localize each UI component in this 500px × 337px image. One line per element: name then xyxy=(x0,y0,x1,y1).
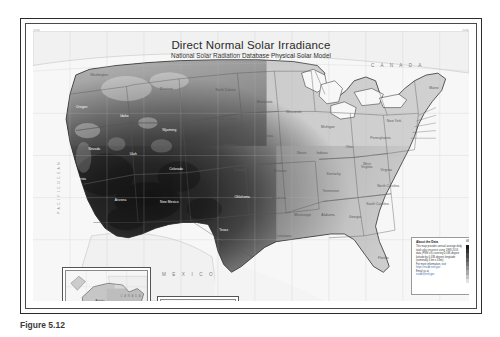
inset-hawaii-frame: Hawaii Pacific Ocean 0 25 50 100 Miles 0… xyxy=(160,299,236,301)
figure-caption: Figure 5.12 xyxy=(20,320,65,330)
email-link[interactable]: nsrdb@nrel.gov xyxy=(416,273,463,277)
scale-swatch xyxy=(466,279,469,283)
color-scale: kWh/m²/Day > 7.57.0 to 7.56.5 to 7.06.0 … xyxy=(466,241,469,292)
alaska-raster xyxy=(66,271,147,301)
about-heading: About the Data xyxy=(416,241,463,244)
scale-unit-label: kWh/m²/Day xyxy=(466,241,469,244)
map-canvas: Direct Normal Solar Irradiance National … xyxy=(33,31,469,301)
inset-map-alaska: Alaska C A N A D A Gulf of Alaska 0 100 … xyxy=(62,267,151,301)
legend-panel: About the Data This map provides annual … xyxy=(411,237,469,295)
scale-rows: > 7.57.0 to 7.56.5 to 7.06.0 to 6.55.5 t… xyxy=(466,245,469,284)
hawaii-raster xyxy=(161,300,235,301)
figure-frame-inner: 125°W120°W115°W110°W105°W100°W95°W90°W85… xyxy=(25,23,477,309)
scale-row: < 4.0 xyxy=(466,279,469,283)
about-text: This map provides annual average daily t… xyxy=(416,245,463,263)
dni-raster-map xyxy=(33,31,469,301)
map-figure: 125°W120°W115°W110°W105°W100°W95°W90°W85… xyxy=(20,18,482,314)
about-the-data: About the Data This map provides annual … xyxy=(416,241,463,292)
inset-map-hawaii: Hawaii Pacific Ocean 0 25 50 100 Miles 0… xyxy=(157,296,239,301)
figure-page: 125°W120°W115°W110°W105°W100°W95°W90°W85… xyxy=(0,0,500,337)
inset-alaska-frame: Alaska C A N A D A Gulf of Alaska 0 100 … xyxy=(65,270,148,301)
